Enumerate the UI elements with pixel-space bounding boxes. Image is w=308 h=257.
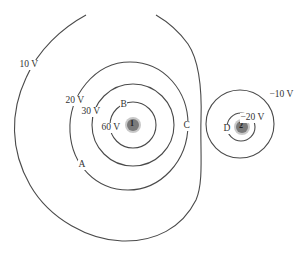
label-20v: 20 V — [65, 96, 85, 106]
label-60v: 60 V — [101, 123, 121, 133]
point-c-label: C — [183, 121, 190, 131]
label-10v: 10 V — [19, 60, 39, 70]
charge-2-label: 2 — [239, 122, 243, 130]
label-neg10v: −10 V — [269, 90, 294, 100]
charge-1-label: 1 — [130, 120, 134, 128]
point-a-label: A — [78, 160, 86, 170]
label-neg20v: −20 V — [240, 113, 265, 123]
point-b-label: B — [120, 100, 127, 110]
equipotential-lines-canvas — [0, 0, 308, 257]
point-d-label: D — [223, 124, 231, 134]
label-30v: 30 V — [81, 107, 101, 117]
equipotential-diagram: 1 2 10 V 20 V 30 V 60 V −10 V −20 V A B … — [0, 0, 308, 257]
